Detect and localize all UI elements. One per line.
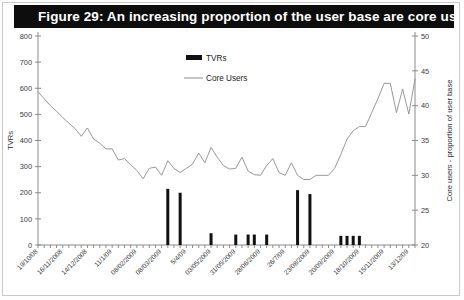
core-users-line <box>38 79 415 179</box>
x-axis-tick-label: 14/12/2008 <box>60 248 89 277</box>
y-axis-left-tick-label: 300 <box>20 162 32 171</box>
y-axis-left-tick-label: 100 <box>20 215 32 224</box>
x-axis-tick-label: 19/10/08 <box>16 248 39 271</box>
y-axis-left-tick-label: 600 <box>20 84 32 93</box>
bar <box>296 190 299 245</box>
y-axis-right-tick-label: 35 <box>421 136 429 145</box>
x-axis-tick-label: 18/10/2009 <box>332 248 361 277</box>
y-axis-right-tick-label: 50 <box>421 32 429 41</box>
y-axis-right-title: Core users - proportion of user base <box>445 80 454 202</box>
bar <box>179 193 182 245</box>
x-axis-tick-label: 28/06/2009 <box>233 248 262 277</box>
legend-label-core-users: Core Users <box>206 74 247 83</box>
bar <box>253 235 256 245</box>
y-axis-left-title: TVRs <box>6 131 15 150</box>
y-axis-left-tick-label: 800 <box>20 32 32 41</box>
x-axis-tick-label: 26/7/09 <box>265 248 286 269</box>
bar <box>234 235 237 245</box>
figure-container: Figure 29: An increasing proportion of t… <box>0 0 464 300</box>
y-axis-left-tick-label: 0 <box>28 241 32 250</box>
x-axis-tick-label: 15/11/2009 <box>357 248 385 276</box>
bar <box>352 236 355 245</box>
x-axis-tick-label: 13/12/09 <box>386 248 409 271</box>
bar <box>358 236 361 245</box>
bar <box>339 236 342 245</box>
legend-label-tvrs: TVRs <box>206 54 226 63</box>
bar <box>210 233 213 245</box>
x-axis-tick-label: 5/4/09 <box>169 248 187 266</box>
bar <box>166 189 169 245</box>
chart-plot-area: 0100200300400500600700800TVRs20253035404… <box>0 0 464 300</box>
y-axis-right-tick-label: 25 <box>421 206 429 215</box>
bar <box>308 194 311 245</box>
y-axis-right-tick-label: 20 <box>421 241 429 250</box>
x-axis-tick-label: 08/03/2009 <box>134 248 163 277</box>
x-axis-tick-label: 11/1/09 <box>93 248 113 268</box>
legend-swatch-tvrs <box>186 55 202 60</box>
bar <box>265 235 268 245</box>
y-axis-right-tick-label: 45 <box>421 67 429 76</box>
y-axis-right-tick-label: 40 <box>421 101 429 110</box>
y-axis-right-tick-label: 30 <box>421 171 429 180</box>
chart-svg: 0100200300400500600700800TVRs20253035404… <box>0 0 464 300</box>
y-axis-left-tick-label: 200 <box>20 188 32 197</box>
y-axis-left-tick-label: 700 <box>20 58 32 67</box>
bar <box>247 235 250 245</box>
y-axis-left-tick-label: 400 <box>20 136 32 145</box>
y-axis-left-tick-label: 500 <box>20 110 32 119</box>
bar <box>346 236 349 245</box>
